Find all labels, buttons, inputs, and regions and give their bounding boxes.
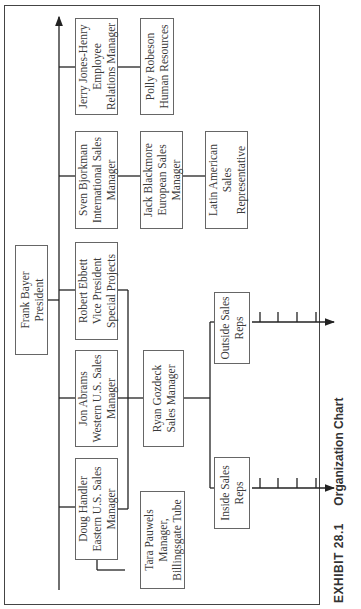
box-jerry-jones-henry: Jerry Jones-Henry Employee Relations Man… [75,18,118,115]
handler-title-2: Manager [104,489,118,530]
org-chart-rotated-stage: Frank Bayer President Jerry Jones-Henry … [0,0,361,609]
sven-title-1: International Sales [90,137,104,223]
box-doug-handler: Doug Handler Eastern U.S. Sales Manager [75,458,118,560]
exhibit-number: EXHIBIT 28.1 [332,523,346,603]
latin-line-1: Latin American [206,144,220,216]
latin-line-2: Sales [220,168,234,192]
box-ryan-gozdeck: Ryan Gozdeck Sales Manager [143,350,184,447]
box-latin-american-sales-rep: Latin American Sales Representative [205,131,248,229]
president-name: Frank Bayer [18,271,32,328]
jerry-name: Jerry Jones-Henry [76,25,90,109]
jack-title-2: Manager [169,160,183,201]
latin-line-3: Representative [234,146,248,214]
handler-title-1: Eastern U.S. Sales [90,467,104,552]
handler-name: Doug Handler [76,476,90,541]
ebbett-name: Robert Ebbett [76,259,90,323]
inside-reps-line-1: Inside Sales [218,465,232,520]
box-inside-sales-reps: Inside Sales Reps [214,457,250,529]
box-jon-abrams: Jon Abrams Western U.S. Sales Manager [75,350,118,447]
exhibit-title: Organization Chart [332,398,346,506]
org-chart-definitive: Frank Bayer President Jerry Jones-Henry … [0,0,361,609]
jack-title-1: European Sales [155,144,169,215]
jerry-title-1: Employee [90,43,104,90]
sven-title-2: Manager [104,160,118,201]
jerry-title-2: Relations Manager [104,23,118,110]
box-outside-sales-reps: Outside Sales Reps [214,292,250,364]
outside-reps-line-1: Outside Sales [218,297,232,360]
ebbett-title-2: Special Projects [104,254,118,328]
abrams-name: Jon Abrams [76,371,90,426]
ryan-name: Ryan Gozdeck [150,365,164,433]
box-sven-bjorkman: Sven Bjorkman International Sales Manage… [75,131,118,229]
tara-name: Tara Pauwels [142,509,156,570]
president-title: President [32,279,46,322]
box-robert-ebbett: Robert Ebbett Vice President Special Pro… [75,242,118,340]
polly-title: Human Resources [157,25,171,109]
tara-title-1: Manager, [156,518,170,561]
box-polly-robeson: Polly Robeson Human Resources [140,18,174,115]
sven-name: Sven Bjorkman [76,144,90,216]
box-frank-bayer-president: Frank Bayer President [15,245,48,355]
box-jack-blackmore: Jack Blackmore European Sales Manager [140,131,183,229]
exhibit-caption: EXHIBIT 28.1 Organization Chart [332,398,346,603]
ryan-title: Sales Manager [164,364,178,432]
abrams-title-1: Western U.S. Sales [90,355,104,443]
tara-title-2: Billingsgate Tube [170,499,184,580]
inside-reps-line-2: Reps [232,482,246,505]
outside-reps-line-2: Reps [232,317,246,340]
jack-name: Jack Blackmore [141,143,155,217]
ebbett-title-1: Vice President [90,258,104,325]
polly-name: Polly Robeson [143,33,157,100]
abrams-title-2: Manager [104,378,118,419]
box-tara-pauwels: Tara Pauwels Manager, Billingsgate Tube [140,491,185,589]
